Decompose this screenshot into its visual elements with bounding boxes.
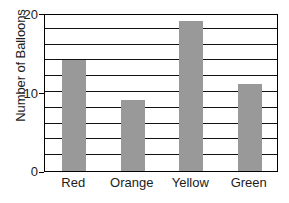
bar-orange xyxy=(121,100,145,171)
y-tick-mark-0 xyxy=(39,172,44,173)
gridline-18 xyxy=(45,28,277,29)
y-tick-label-10: 10 xyxy=(12,87,38,100)
bar-yellow xyxy=(179,21,203,171)
gridline-16 xyxy=(45,44,277,45)
plot-area xyxy=(44,14,278,172)
bar-green xyxy=(238,84,262,171)
bar-red xyxy=(62,60,86,171)
y-tick-label-20: 20 xyxy=(12,8,38,21)
bar-chart-figure: Number of Balloons 20 10 0 RedOrangeYell… xyxy=(0,0,289,203)
x-tick-label-green: Green xyxy=(209,176,289,189)
